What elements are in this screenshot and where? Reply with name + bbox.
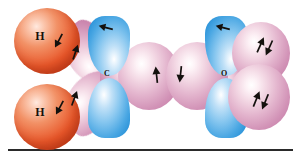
orbital-lobe-shape bbox=[228, 64, 290, 130]
orbital-c-p-bottom bbox=[88, 78, 130, 138]
atom-hydrogen-bottom bbox=[14, 84, 80, 150]
orbital-diagram-figure: H H C O bbox=[0, 0, 293, 156]
orbital-lobe-shape bbox=[88, 16, 130, 76]
orbital-c-p-top bbox=[88, 16, 130, 76]
atom-hydrogen-top bbox=[14, 8, 80, 74]
orbital-o-lone-pair-bottom bbox=[228, 64, 290, 130]
orbital-lobe-shape bbox=[88, 78, 130, 138]
